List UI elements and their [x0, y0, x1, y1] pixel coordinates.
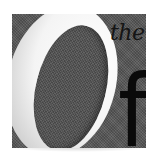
of-the-logo: the f [12, 14, 146, 148]
word-the: the [110, 20, 145, 45]
letter-f: f [118, 62, 146, 148]
